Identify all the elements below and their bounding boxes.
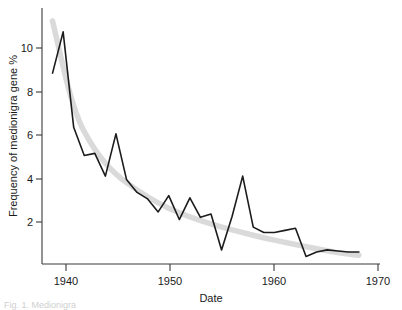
- x-tick-label-1960: 1960: [262, 275, 286, 287]
- x-axis-title: Date: [199, 292, 222, 304]
- x-axis-ticks: 1940 1950 1960 1970: [54, 264, 390, 287]
- figure-caption: Fig. 1. Medionigra: [4, 300, 76, 310]
- x-tick-label-1940: 1940: [54, 275, 78, 287]
- x-tick-label-1970: 1970: [366, 275, 390, 287]
- y-tick-label-2: 2: [27, 216, 33, 228]
- y-tick-label-6: 6: [27, 129, 33, 141]
- y-tick-label-4: 4: [27, 173, 33, 185]
- y-tick-label-8: 8: [27, 86, 33, 98]
- trend-band-path: [53, 21, 359, 255]
- y-tick-label-10: 10: [21, 42, 33, 54]
- x-tick-label-1950: 1950: [158, 275, 182, 287]
- y-axis-title: Frequency of medionigra gene %: [7, 55, 19, 217]
- y-axis-ticks: 10 8 6 4 2: [21, 42, 42, 228]
